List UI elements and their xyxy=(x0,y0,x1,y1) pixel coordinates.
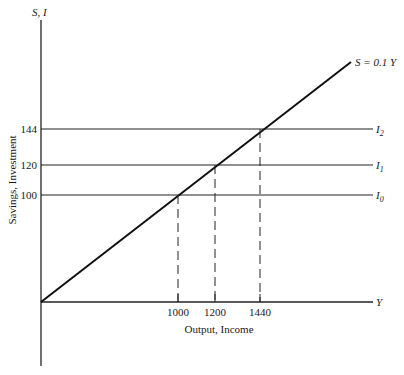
label-i0: I0 xyxy=(375,189,384,204)
y-tick-120: 120 xyxy=(21,159,38,171)
savings-line-label: S = 0.1 Y xyxy=(355,56,398,68)
x-axis-symbol: Y xyxy=(376,296,384,308)
savings-line xyxy=(41,62,351,302)
x-tick-label-1440: 1440 xyxy=(249,306,272,318)
chart-canvas: S, I 144 120 100 Savings, Investment 100… xyxy=(0,0,404,375)
label-i2: I2 xyxy=(375,123,384,138)
y-tick-100: 100 xyxy=(21,189,38,201)
y-axis-symbol: S, I xyxy=(32,6,48,18)
x-tick-label-1200: 1200 xyxy=(204,306,227,318)
x-tick-label-1000: 1000 xyxy=(167,306,190,318)
x-axis-title: Output, Income xyxy=(184,323,253,335)
y-tick-144: 144 xyxy=(21,123,38,135)
y-axis-title: Savings, Investment xyxy=(6,135,18,224)
label-i1: I1 xyxy=(375,159,384,174)
